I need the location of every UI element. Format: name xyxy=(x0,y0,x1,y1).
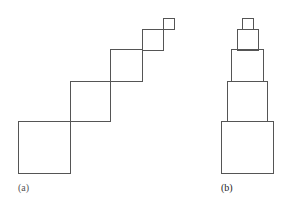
square-a-2 xyxy=(71,82,111,122)
figure-a-staircase-squares xyxy=(19,19,175,174)
squares-diagram xyxy=(0,0,285,199)
square-b-3 xyxy=(232,50,264,82)
square-b-2 xyxy=(228,82,268,122)
square-a-3 xyxy=(111,50,143,82)
figure-b-caption: (b) xyxy=(221,182,233,194)
square-b-1 xyxy=(222,122,274,174)
square-b-5 xyxy=(243,19,254,30)
square-a-1 xyxy=(19,122,71,174)
square-a-4 xyxy=(143,30,164,51)
square-a-5 xyxy=(164,19,175,30)
figure-a-caption: (a) xyxy=(18,182,29,194)
figure-b-stacked-squares xyxy=(222,19,274,174)
square-b-4 xyxy=(238,30,259,51)
